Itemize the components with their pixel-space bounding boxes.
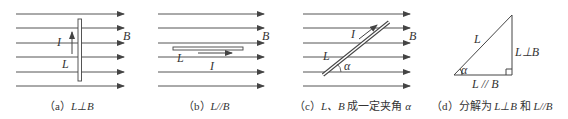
- caption-d-text: 和: [517, 100, 534, 112]
- caption-c: （c）L、B 成一定夹角 α: [294, 97, 411, 113]
- panel-a-label-length: L: [61, 57, 69, 71]
- caption-b-prefix: （b）: [183, 100, 211, 112]
- panel-d-label-hypotenuse: L: [473, 32, 481, 46]
- caption-b-math: L//B: [211, 100, 230, 112]
- caption-a: （a）L⊥B: [44, 97, 94, 113]
- panel-a-field-lines: [16, 14, 124, 86]
- caption-c-prefix: （c）: [294, 100, 321, 112]
- panel-b-label-field: B: [262, 29, 270, 43]
- panel-a-label-field: B: [123, 29, 131, 43]
- caption-c-angle: α: [405, 100, 411, 112]
- panel-c-label-angle: α: [344, 59, 351, 73]
- panel-a-conductor-rod: [78, 19, 82, 81]
- panel-c-conductor-rod: [323, 22, 389, 75]
- caption-d-math2: L//B: [534, 100, 553, 112]
- caption-a-prefix: （a）: [44, 100, 71, 112]
- caption-d: （d）分解为 L⊥B 和 L//B: [431, 97, 553, 113]
- caption-c-text: 成一定夹角: [345, 100, 406, 112]
- panel-d-label-angle: α: [461, 63, 468, 77]
- panel-b-conductor-rod: [173, 47, 243, 50]
- panel-d-label-horizontal: L // B: [471, 77, 499, 91]
- caption-d-math1: L⊥B: [494, 100, 517, 112]
- caption-a-math: L⊥B: [71, 100, 94, 112]
- caption-c-math: L、B: [321, 100, 345, 112]
- panel-a-label-current: I: [56, 35, 62, 49]
- panel-d-label-vertical: L⊥B: [514, 45, 540, 59]
- caption-d-prefix: （d）分解为: [431, 100, 494, 112]
- panel-c-label-length: L: [322, 49, 330, 63]
- panel-c-label-field: B: [409, 29, 417, 43]
- panel-c-label-current: I: [350, 27, 356, 41]
- caption-b: （b）L//B: [183, 97, 229, 113]
- panel-b-label-length: L: [176, 51, 184, 65]
- panel-b-label-current: I: [209, 59, 215, 73]
